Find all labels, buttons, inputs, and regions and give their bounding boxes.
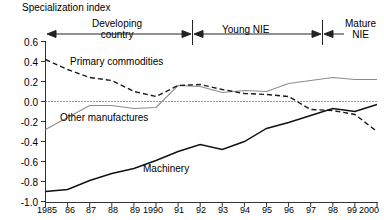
- x-tick-label-9: 94: [233, 205, 257, 215]
- x-tick-label-0: 1985: [33, 205, 61, 215]
- series-label-other-manufactures: Other manufactures: [60, 112, 148, 123]
- region-developing-line1: Developing: [92, 18, 142, 29]
- x-tick-label-10: 95: [255, 205, 279, 215]
- plot-area: [0, 0, 384, 220]
- x-tick-label-15: 2000: [354, 205, 384, 215]
- region-developing-line2: country: [101, 29, 134, 40]
- x-tick-label-8: 93: [211, 205, 235, 215]
- region-label-mature-nie: Mature NIE: [345, 19, 376, 40]
- chart-figure: Specialization index Developing country …: [0, 0, 384, 220]
- y-tick-label-2: 0.2: [8, 77, 38, 88]
- x-tick-label-12: 97: [299, 205, 323, 215]
- y-axis-ticks: [41, 42, 46, 202]
- region-mature-line2: NIE: [352, 29, 369, 40]
- series-label-machinery: Machinery: [143, 163, 189, 174]
- y-tick-label-5: -0.4: [8, 137, 38, 148]
- x-tick-label-3: 88: [101, 205, 125, 215]
- region-label-developing: Developing country: [92, 19, 142, 40]
- region-label-young-nie: Young NIE: [222, 25, 269, 36]
- y-tick-label-4: -0.2: [8, 117, 38, 128]
- y-axis-title: Specialization index: [22, 2, 110, 14]
- series-label-primary-commodities: Primary commodities: [70, 56, 163, 67]
- span-arrow-mature-nie: [324, 31, 344, 38]
- y-tick-label-6: -0.6: [8, 157, 38, 168]
- region-mature-line1: Mature: [345, 18, 376, 29]
- x-tick-label-5: 1990: [138, 205, 168, 215]
- x-tick-label-7: 92: [189, 205, 213, 215]
- y-tick-label-1: 0.4: [8, 57, 38, 68]
- y-tick-label-7: -0.8: [8, 177, 38, 188]
- x-tick-label-11: 96: [277, 205, 301, 215]
- y-tick-label-0: 0.6: [8, 37, 38, 48]
- y-tick-label-3: 0.0: [8, 97, 38, 108]
- x-tick-label-2: 87: [79, 205, 103, 215]
- x-tick-label-6: 91: [167, 205, 191, 215]
